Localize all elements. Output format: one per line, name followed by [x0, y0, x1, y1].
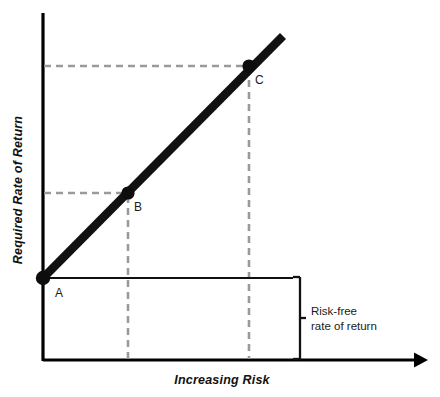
security-market-line — [43, 36, 283, 278]
x-axis-title: Increasing Risk — [174, 373, 270, 387]
x-axis-arrow-icon — [414, 353, 428, 368]
risk-free-label-line2: rate of return — [311, 320, 377, 332]
y-axis-title: Required Rate of Return — [11, 116, 25, 265]
chart-container: A B C Risk-free rate of return Required … — [0, 0, 440, 397]
point-label-b: B — [134, 200, 142, 214]
risk-free-label-line1: Risk-free — [311, 305, 357, 317]
data-point-b[interactable] — [121, 186, 134, 199]
data-point-c[interactable] — [242, 59, 255, 72]
point-label-a: A — [55, 286, 63, 300]
axes-group — [43, 13, 428, 368]
point-label-c: C — [255, 73, 264, 87]
risk-free-bracket-icon — [293, 277, 306, 360]
guide-lines-group — [44, 66, 249, 359]
risk-return-chart: A B C Risk-free rate of return Required … — [0, 0, 440, 397]
data-point-a[interactable] — [36, 271, 50, 285]
